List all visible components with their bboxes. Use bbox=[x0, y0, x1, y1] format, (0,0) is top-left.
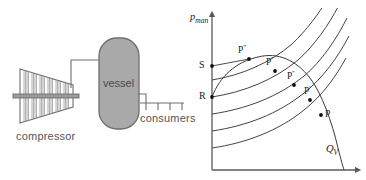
consumer-curve-3 bbox=[212, 18, 347, 114]
s-tie-line bbox=[212, 59, 249, 66]
label-point-s: S bbox=[199, 60, 205, 70]
compressor-label: compressor bbox=[16, 131, 75, 142]
figure-root: compressor vessel consumers bbox=[0, 0, 366, 180]
compressor-to-vessel-pipe bbox=[71, 60, 103, 88]
x-axis-label-main: Q bbox=[326, 143, 334, 154]
y-axis-label-sub: man bbox=[195, 16, 208, 25]
label-p-sup-2: '' bbox=[271, 55, 273, 63]
label-point-p-triple-prime: P''' bbox=[238, 44, 246, 56]
schematic-svg bbox=[0, 0, 186, 180]
y-axis-label: pman bbox=[190, 12, 208, 25]
marker-point-s bbox=[210, 64, 214, 68]
chart-panel: pman QV S R P''' P'' P'' P' P bbox=[186, 0, 366, 180]
chart-svg bbox=[186, 0, 366, 180]
marker-point-p-triple-prime bbox=[247, 57, 251, 61]
marker-point-r bbox=[210, 95, 214, 99]
label-p-sup-3: '' bbox=[292, 69, 294, 77]
label-point-p-prime: P' bbox=[304, 85, 310, 97]
consumer-curve-5 bbox=[212, 0, 327, 80]
compressor-symbol bbox=[13, 69, 79, 123]
label-point-r: R bbox=[199, 91, 206, 101]
marker-point-p bbox=[319, 113, 323, 117]
label-point-p-prime-prime: P'' bbox=[287, 70, 294, 82]
consumer-curve-4 bbox=[212, 7, 338, 97]
compressor-shaft bbox=[13, 94, 79, 98]
consumers-header bbox=[140, 103, 184, 110]
label-p-sup-4: ' bbox=[309, 84, 310, 92]
x-axis-label-sub: V bbox=[334, 148, 339, 157]
consumer-characteristic-curves bbox=[212, 0, 349, 148]
marker-point-p-prime bbox=[308, 98, 312, 102]
x-axis-label: QV bbox=[326, 144, 338, 157]
marker-point-p-double-prime bbox=[273, 69, 277, 73]
vessel-label: vessel bbox=[103, 78, 134, 89]
marker-point-p-prime-prime bbox=[292, 83, 296, 87]
label-p-sup-1: ''' bbox=[243, 43, 246, 51]
schematic-panel: compressor vessel consumers bbox=[0, 0, 186, 180]
label-point-p: P bbox=[325, 110, 330, 120]
label-point-p-double-prime: P'' bbox=[266, 56, 273, 68]
